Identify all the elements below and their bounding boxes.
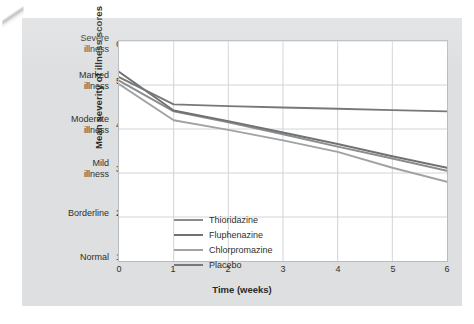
y-tick-5-line2: illness	[59, 81, 109, 92]
legend-label-chlorpromazine: Chlorpromazine	[209, 245, 273, 255]
legend-swatch-chlorpromazine	[174, 249, 203, 251]
chart-figure: Mean severity of illness scores Severe i…	[22, 18, 462, 306]
legend-item-placebo: Placebo	[174, 257, 324, 272]
chart-screenshot: Mean severity of illness scores Severe i…	[0, 0, 474, 324]
y-tick-6-category: Severe illness	[59, 33, 109, 54]
y-tick-1-category: Normal	[59, 252, 109, 263]
y-tick-1-line1: Normal	[59, 252, 109, 263]
x-tick-0: 0	[116, 264, 121, 274]
chart-legend: Thioridazine Fluphenazine Chlorpromazine…	[174, 212, 324, 272]
y-tick-4-line2: illness	[59, 125, 109, 136]
x-tick-5: 5	[390, 264, 395, 274]
y-tick-5-line1: Marked	[59, 70, 109, 81]
y-tick-4-category: Moderate illness	[59, 114, 109, 135]
legend-swatch-placebo	[174, 264, 203, 266]
y-tick-3-category: Mild illness	[59, 158, 109, 179]
x-axis-title: Time (weeks)	[22, 284, 462, 295]
y-tick-4-line1: Moderate	[59, 114, 109, 125]
y-tick-2-line1: Borderline	[59, 208, 109, 219]
y-tick-2-category: Borderline	[59, 208, 109, 219]
legend-label-placebo: Placebo	[209, 260, 242, 270]
legend-label-thioridazine: Thioridazine	[209, 215, 258, 225]
y-tick-3-line1: Mild	[59, 158, 109, 169]
legend-label-fluphenazine: Fluphenazine	[209, 230, 263, 240]
x-tick-4: 4	[335, 264, 340, 274]
legend-item-thioridazine: Thioridazine	[174, 212, 324, 227]
y-tick-3-line2: illness	[59, 169, 109, 180]
legend-item-chlorpromazine: Chlorpromazine	[174, 242, 324, 257]
x-tick-6: 6	[444, 264, 449, 274]
y-tick-6-line1: Severe	[59, 33, 109, 44]
legend-swatch-fluphenazine	[174, 234, 203, 236]
legend-item-fluphenazine: Fluphenazine	[174, 227, 324, 242]
legend-swatch-thioridazine	[174, 219, 203, 221]
y-tick-6-line2: illness	[59, 44, 109, 55]
y-tick-5-category: Marked illness	[59, 70, 109, 91]
